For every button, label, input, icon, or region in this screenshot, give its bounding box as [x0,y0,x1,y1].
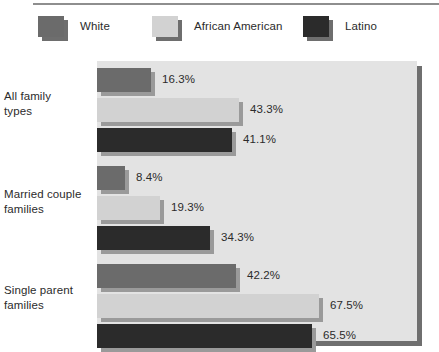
bar-face [97,264,236,288]
bar-face [97,128,232,152]
bar-white-all-family-types [97,68,151,92]
bar-chart-figure: White African American Latino All family… [0,0,439,352]
bar-white-married-couple-families [97,166,125,190]
bar-white-single-parent-families [97,264,236,288]
bar-value-label: 67.5% [330,299,363,311]
legend-swatch-white-icon [38,16,64,37]
bar-latino-married-couple-families [97,226,210,250]
bar-latino-single-parent-families [97,324,312,348]
bar-value-label: 16.3% [162,73,195,85]
bar-value-label: 43.3% [250,103,283,115]
bar-face [97,294,319,318]
legend-item-african-american: African American [152,12,283,40]
bar-latino-all-family-types [97,128,232,152]
bar-value-label: 65.5% [323,329,356,341]
legend-label-white: White [80,20,110,32]
bar-face [97,98,239,122]
category-label-line1: Single parent [4,283,96,298]
bar-value-label: 34.3% [221,231,254,243]
bar-face [97,68,151,92]
bar-african-american-all-family-types [97,98,239,122]
legend-item-white: White [38,12,110,40]
bar-face [97,226,210,250]
category-label-single-parent-families: Single parent families [4,283,96,313]
bar-face [97,324,312,348]
category-label-line2: families [4,298,96,313]
bar-face [97,196,160,220]
category-label-line1: Married couple [4,187,96,202]
category-label-line2: families [4,202,96,217]
legend-label-latino: Latino [345,20,377,32]
legend-label-african-american: African American [194,20,283,32]
legend-swatch-african-american-icon [152,16,178,37]
category-label-line1: All family [4,89,96,104]
legend-swatch-latino-icon [303,16,329,37]
category-label-line2: types [4,104,96,119]
bar-african-american-single-parent-families [97,294,319,318]
bar-value-label: 19.3% [171,201,204,213]
chart-legend: White African American Latino [0,12,439,42]
legend-item-latino: Latino [303,12,377,40]
bar-value-label: 8.4% [136,171,163,183]
category-label-married-couple-families: Married couple families [4,187,96,217]
bar-african-american-married-couple-families [97,196,160,220]
category-label-all-family-types: All family types [4,89,96,119]
bar-value-label: 41.1% [243,133,276,145]
header-divider [33,3,439,5]
bar-value-label: 42.2% [247,269,280,281]
bar-face [97,166,125,190]
